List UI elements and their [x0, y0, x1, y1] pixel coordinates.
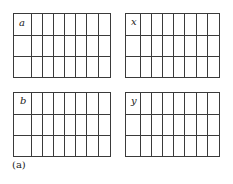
grid-column-line	[184, 93, 185, 156]
grid-a: a	[13, 13, 111, 78]
grid-column-line	[31, 14, 32, 77]
grid-column-line	[98, 14, 99, 77]
grid-column-line	[207, 14, 208, 77]
grid-label-y: y	[131, 96, 137, 106]
grid-column-line	[196, 93, 197, 156]
grid-row-line	[126, 135, 219, 136]
grid-b: b	[13, 92, 111, 157]
grid-label-b: b	[20, 96, 26, 106]
grid-column-line	[42, 14, 43, 77]
grid-column-line	[207, 93, 208, 156]
grid-row-line	[14, 114, 110, 115]
grid-column-line	[196, 14, 197, 77]
grid-column-line	[53, 14, 54, 77]
grid-column-line	[53, 93, 54, 156]
grid-row-line	[14, 56, 110, 57]
grid-column-line	[98, 93, 99, 156]
grid-row-line	[14, 135, 110, 136]
grid-y: y	[125, 92, 220, 157]
grid-column-line	[173, 93, 174, 156]
grid-column-line	[75, 14, 76, 77]
grid-column-line	[31, 93, 32, 156]
grid-row-line	[14, 35, 110, 36]
grid-row-line	[126, 114, 219, 115]
grid-column-line	[151, 14, 152, 77]
grid-row-line	[126, 56, 219, 57]
grid-row-line	[126, 35, 219, 36]
grid-column-line	[64, 93, 65, 156]
grid-label-x: x	[131, 17, 137, 27]
grid-column-line	[75, 93, 76, 156]
grid-column-line	[64, 14, 65, 77]
grid-x: x	[125, 13, 220, 78]
figure-caption: (a)	[12, 159, 26, 170]
grid-column-line	[151, 93, 152, 156]
grid-column-line	[162, 93, 163, 156]
grid-column-line	[86, 14, 87, 77]
grid-column-line	[42, 93, 43, 156]
grid-column-line	[173, 14, 174, 77]
grid-column-line	[140, 93, 141, 156]
grid-column-line	[86, 93, 87, 156]
grid-column-line	[162, 14, 163, 77]
grid-column-line	[184, 14, 185, 77]
grid-column-line	[140, 14, 141, 77]
grid-label-a: a	[19, 18, 25, 28]
